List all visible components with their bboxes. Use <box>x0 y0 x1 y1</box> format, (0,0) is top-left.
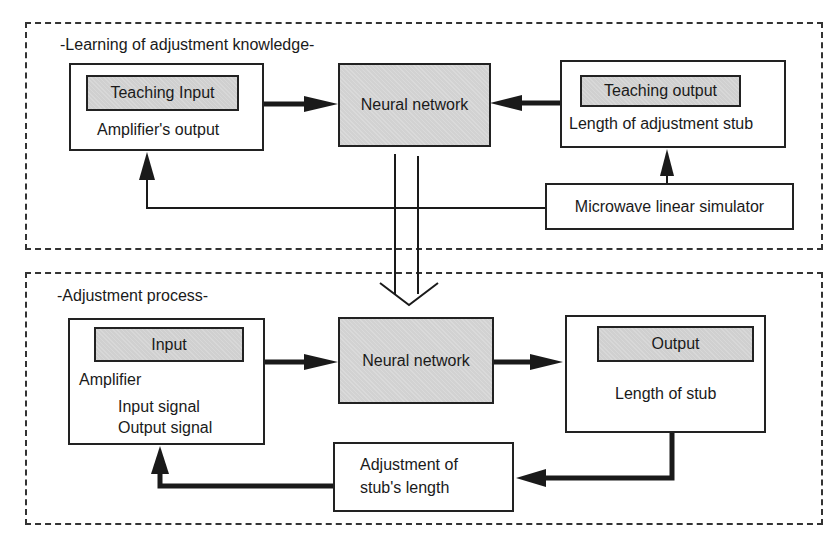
adjustment-section-title: -Adjustment process- <box>57 287 208 305</box>
learning-section-title: -Learning of adjustment knowledge- <box>60 36 314 54</box>
microwave-simulator-box: Microwave linear simulator <box>545 183 794 230</box>
adjustment-of-stub-box: Adjustment of stub's length <box>333 442 514 512</box>
neural-network-learning-label: Neural network <box>361 96 469 114</box>
teaching-input-box: Teaching Input Amplifier's output <box>69 63 264 151</box>
teaching-output-header: Teaching output <box>580 75 741 107</box>
input-amplifier-label: Amplifier <box>79 371 141 389</box>
teaching-input-label: Amplifier's output <box>97 121 219 139</box>
teaching-output-label: Length of adjustment stub <box>569 115 753 133</box>
output-length-label: Length of stub <box>615 385 716 403</box>
neural-network-adjustment-label: Neural network <box>362 352 470 370</box>
input-signal-label: Input signal <box>118 398 200 416</box>
adjustment-line1: Adjustment of <box>360 456 458 474</box>
teaching-input-header: Teaching Input <box>86 75 239 111</box>
teaching-output-box: Teaching output Length of adjustment stu… <box>560 60 786 148</box>
output-header: Output <box>597 326 754 362</box>
adjustment-line2: stub's length <box>360 479 449 497</box>
input-box: Input Amplifier Input signal Output sign… <box>68 318 265 445</box>
neural-network-adjustment: Neural network <box>338 317 494 404</box>
output-box: Output Length of stub <box>565 315 766 433</box>
microwave-simulator-label: Microwave linear simulator <box>575 198 764 216</box>
output-signal-label: Output signal <box>118 419 212 437</box>
neural-network-learning: Neural network <box>338 63 491 147</box>
input-header: Input <box>94 327 244 362</box>
